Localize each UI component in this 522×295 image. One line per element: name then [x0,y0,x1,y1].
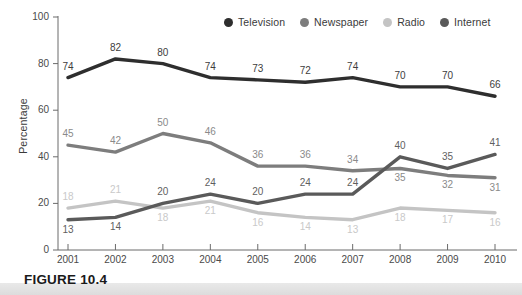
data-point-label: 36 [290,149,320,160]
y-axis-tick-label: 80 [0,58,49,69]
data-point-label: 35 [433,151,463,162]
data-point-label: 14 [100,221,130,232]
data-point-label: 66 [480,79,510,90]
series-line-television [68,59,495,96]
data-point-label: 18 [53,191,83,202]
x-axis-tick-label: 2003 [141,254,185,265]
data-point-label: 74 [338,61,368,72]
data-point-label: 18 [148,212,178,223]
x-axis-tick-label: 2008 [378,254,422,265]
x-axis-tick-label: 2002 [93,254,137,265]
data-point-label: 16 [480,217,510,228]
y-axis-tick-label: 100 [0,11,49,22]
x-axis-tick-label: 2004 [188,254,232,265]
data-point-label: 32 [433,179,463,190]
data-point-label: 35 [385,172,415,183]
y-axis-tick-label: 40 [0,151,49,162]
x-axis-tick-label: 2001 [46,254,90,265]
data-point-label: 24 [290,177,320,188]
data-point-label: 20 [243,186,273,197]
data-point-label: 16 [243,217,273,228]
x-axis-tick-label: 2009 [426,254,470,265]
figure-container: TelevisionNewspaperRadioInternet Percent… [0,0,522,295]
data-point-label: 36 [243,149,273,160]
data-point-label: 34 [338,154,368,165]
series-line-newspaper [68,134,495,178]
data-point-label: 20 [148,186,178,197]
data-point-label: 74 [195,61,225,72]
figure-caption: FIGURE 10.4 [24,272,107,287]
y-axis-tick-label: 20 [0,197,49,208]
y-axis-tick-label: 0 [0,244,49,255]
data-point-label: 82 [100,42,130,53]
data-point-label: 17 [433,214,463,225]
data-point-label: 21 [100,184,130,195]
data-point-label: 41 [480,137,510,148]
data-point-label: 50 [148,117,178,128]
x-axis-tick-label: 2005 [236,254,280,265]
data-point-label: 72 [290,65,320,76]
x-axis-tick-label: 2006 [283,254,327,265]
data-point-label: 40 [385,140,415,151]
data-point-label: 73 [243,63,273,74]
y-axis-tick-label: 60 [0,104,49,115]
data-point-label: 42 [100,135,130,146]
data-point-label: 45 [53,128,83,139]
data-point-label: 18 [385,212,415,223]
data-point-label: 24 [195,177,225,188]
data-point-label: 21 [195,205,225,216]
data-point-label: 74 [53,61,83,72]
x-axis-tick-label: 2007 [331,254,375,265]
x-axis-tick-label: 2010 [473,254,517,265]
data-point-label: 13 [53,224,83,235]
data-point-label: 13 [338,224,368,235]
data-point-label: 14 [290,221,320,232]
data-point-label: 70 [433,70,463,81]
data-point-label: 80 [148,47,178,58]
data-point-label: 31 [480,182,510,193]
series-line-radio [68,201,495,220]
data-point-label: 70 [385,70,415,81]
data-point-label: 24 [338,177,368,188]
data-point-label: 46 [195,126,225,137]
